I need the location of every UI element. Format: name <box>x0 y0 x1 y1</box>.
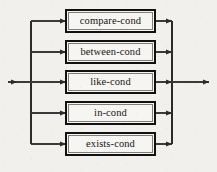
node-box-outer-in-cond <box>66 102 155 124</box>
node-box-compare-cond <box>66 10 155 32</box>
node-box-exists-cond <box>66 133 155 155</box>
node-box-like-cond <box>66 71 155 93</box>
node-box-outer-exists-cond <box>66 133 155 155</box>
node-box-in-cond <box>66 102 155 124</box>
node-box-outer-compare-cond <box>66 10 155 32</box>
node-box-between-cond <box>66 41 155 63</box>
node-box-outer-between-cond <box>66 41 155 63</box>
node-box-outer-like-cond <box>66 71 155 93</box>
railroad-diagram-canvas: compare-condbetween-condlike-condin-cond… <box>0 0 217 172</box>
diagram-vector-layer <box>0 0 217 172</box>
